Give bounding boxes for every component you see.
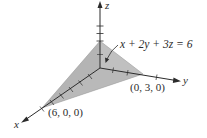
z-axis-arrowhead-icon [98, 1, 103, 8]
x-axis-label: x [14, 119, 19, 130]
y-axis-arrowhead-icon [173, 78, 181, 83]
y-intercept-label: (0, 3, 0) [130, 82, 165, 93]
x-intercept-label: (6, 0, 0) [48, 107, 83, 118]
diagram-canvas [0, 0, 207, 138]
y-axis-label: y [183, 75, 188, 86]
x-axis-arrowhead-icon [21, 117, 29, 123]
plane-equation-label: x + 2y + 3z = 6 [120, 39, 192, 51]
z-axis-label: z [105, 0, 109, 11]
plane-diagram: z y x x + 2y + 3z = 6 (0, 3, 0) (6, 0, 0… [0, 0, 207, 138]
